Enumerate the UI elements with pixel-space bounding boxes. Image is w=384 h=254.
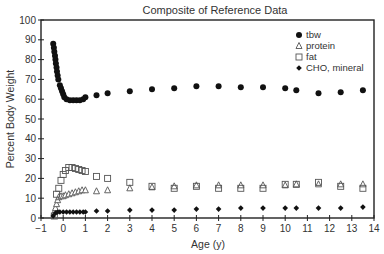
data-point [294,205,300,211]
x-tick-label: 2 [105,223,111,234]
data-point [316,90,322,96]
legend-label: protein [306,40,335,51]
x-tick-label: 5 [171,223,177,234]
y-tick-label: 0 [30,213,36,224]
data-point [55,76,61,82]
legend-item: fat [296,51,317,62]
data-point [360,87,366,93]
x-tick-label: 14 [368,223,380,234]
diamond-marker-icon [296,65,302,71]
data-point [216,182,222,188]
legend-label: CHO, mineral [306,62,364,73]
y-tick-label: 60 [25,94,37,105]
x-tick-label: 13 [346,223,358,234]
x-tick-label: 9 [260,223,266,234]
legend-item: tbw [296,29,321,40]
square-marker-icon [296,54,302,60]
data-point [216,206,222,212]
data-point [238,84,244,90]
y-tick-label: 30 [25,153,37,164]
x-tick-label: 4 [149,223,155,234]
chart-container: Composite of Reference Data −10123456789… [0,0,384,254]
data-point [260,182,266,188]
chart-title: Composite of Reference Data [143,4,289,16]
data-point [238,205,244,211]
data-point [56,185,62,191]
data-point [171,85,177,91]
data-point [127,88,133,94]
data-point [216,83,222,89]
data-point [194,206,200,212]
data-point [260,205,266,211]
data-point [94,92,100,98]
y-tick-label: 40 [25,133,37,144]
legend-item: CHO, mineral [296,62,363,73]
data-point [193,83,199,89]
legend: tbwproteinfatCHO, mineral [296,29,364,73]
data-point [105,175,111,181]
x-tick-label: 1 [83,223,89,234]
x-tick-label: 10 [280,223,292,234]
data-point [316,205,322,211]
data-point [338,205,344,211]
x-tick-label: 8 [238,223,244,234]
y-tick-label: 80 [25,54,37,65]
x-tick-label: 11 [302,223,313,234]
x-tick-label: 12 [324,223,336,234]
data-point [171,183,177,189]
data-point [360,204,366,210]
data-point [94,173,100,179]
x-tick-label: 6 [194,223,200,234]
y-axis-label: Percent Body Weight [4,70,16,169]
x-tick-label: 7 [216,223,222,234]
data-point [238,182,244,188]
data-point [127,207,133,213]
data-point [105,187,111,193]
triangle-marker-icon [296,43,302,49]
x-tick-label: 3 [127,223,133,234]
data-point [338,89,344,95]
y-tick-label: 90 [25,34,37,45]
data-point [149,86,155,92]
x-tick-label: 0 [60,223,66,234]
data-point [82,94,88,100]
data-point [293,87,299,93]
legend-label: fat [306,51,317,62]
y-tick-label: 100 [19,15,36,26]
data-point [60,171,66,177]
legend-item: protein [296,40,335,51]
y-tick-label: 20 [25,173,37,184]
data-point [58,177,64,183]
x-tick-label: −1 [35,223,47,234]
scatter-plot: Composite of Reference Data −10123456789… [0,0,384,254]
data-point [316,181,322,187]
data-point [338,181,344,187]
data-point [260,84,266,90]
data-point [149,207,155,213]
data-point [94,208,100,214]
data-point [282,205,288,211]
data-point [105,90,111,96]
y-tick-label: 10 [25,193,37,204]
legend-label: tbw [306,29,321,40]
x-axis-label: Age (y) [191,238,225,250]
y-tick-label: 70 [25,74,37,85]
circle-marker-icon [296,32,302,38]
y-tick-label: 50 [25,114,37,125]
data-point [105,208,111,214]
data-point [360,181,366,187]
data-point [193,182,199,188]
series-cho-mineral [50,204,365,219]
data-point [94,188,100,194]
data-point [282,85,288,91]
data-point [171,207,177,213]
